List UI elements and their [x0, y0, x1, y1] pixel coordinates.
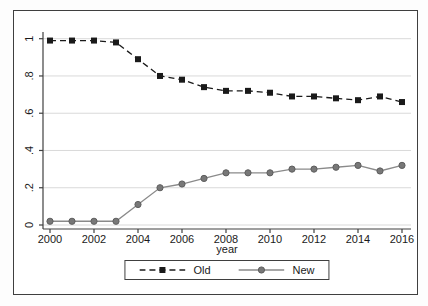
new-marker	[69, 218, 75, 224]
new-marker	[355, 162, 361, 168]
new-marker	[91, 218, 97, 224]
new-marker	[311, 166, 317, 172]
old-marker	[91, 38, 97, 44]
old-marker	[223, 88, 229, 94]
old-marker	[201, 84, 207, 90]
new-legend-swatch	[239, 264, 285, 276]
old-marker	[179, 77, 185, 83]
x-tick-label: 2016	[390, 233, 414, 245]
old-marker	[399, 99, 405, 105]
x-tick-label: 2012	[302, 233, 326, 245]
legend-label-old: Old	[193, 264, 210, 276]
legend-label-new: New	[293, 264, 315, 276]
old-marker	[113, 39, 119, 45]
new-marker	[179, 181, 185, 187]
old-marker	[267, 90, 273, 96]
old-marker	[47, 38, 53, 44]
old-marker	[355, 97, 361, 103]
x-tick-label: 2014	[346, 233, 370, 245]
x-tick-label: 2002	[82, 233, 106, 245]
y-tick-label: 0	[23, 222, 35, 228]
new-marker	[377, 168, 383, 174]
new-marker	[113, 218, 119, 224]
old-marker	[311, 93, 317, 99]
new-marker	[399, 162, 405, 168]
y-tick-label: .6	[23, 109, 35, 118]
y-tick-label: .2	[23, 183, 35, 192]
new-marker	[201, 175, 207, 181]
y-tick-label: 1	[23, 36, 35, 42]
x-tick-label: 2004	[126, 233, 150, 245]
chart-figure: 0.2.4.6.81200020022004200620082010201220…	[13, 10, 418, 295]
old-marker	[377, 93, 383, 99]
new-marker	[245, 170, 251, 176]
old-marker	[135, 56, 141, 62]
new-marker	[267, 170, 273, 176]
legend: OldNew	[124, 260, 329, 280]
y-tick-label: .4	[23, 146, 35, 155]
old-legend-swatch	[139, 264, 185, 276]
x-axis-title: year	[216, 243, 237, 255]
new-marker	[47, 218, 53, 224]
legend-entry-old: Old	[139, 264, 210, 276]
legend-entry-new: New	[239, 264, 315, 276]
old-marker	[157, 73, 163, 79]
old-marker	[333, 95, 339, 101]
new-marker	[289, 166, 295, 172]
new-marker	[223, 170, 229, 176]
new-legend-marker-icon	[258, 267, 264, 273]
x-tick-label: 2006	[170, 233, 194, 245]
new-marker	[157, 185, 163, 191]
old-legend-marker-icon	[159, 267, 165, 273]
x-tick-label: 2010	[258, 233, 282, 245]
y-tick-label: .8	[23, 71, 35, 80]
old-marker	[245, 88, 251, 94]
old-marker	[69, 38, 75, 44]
x-tick-label: 2000	[38, 233, 62, 245]
new-marker	[135, 201, 141, 207]
old-marker	[289, 93, 295, 99]
new-marker	[333, 164, 339, 170]
